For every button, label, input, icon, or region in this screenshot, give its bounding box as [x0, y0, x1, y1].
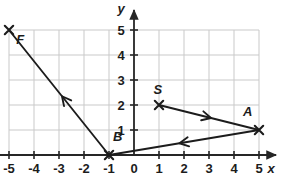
coordinate-plane-figure: -5-4-3-2-101234512345xyFBSA [0, 0, 281, 183]
coordinate-plane-svg: -5-4-3-2-101234512345xyFBSA [0, 0, 281, 183]
x-axis-tick-label: -3 [53, 161, 65, 176]
x-axis-tick-label: -2 [78, 161, 90, 176]
x-axis-tick-label: 1 [155, 161, 162, 176]
point-label-A: A [242, 104, 252, 119]
x-axis-tick-label: -4 [28, 161, 40, 176]
x-axis-tick-label: -5 [3, 161, 15, 176]
x-axis-tick-label: 0 [130, 161, 137, 176]
x-axis-label: x [266, 161, 275, 176]
point-label-S: S [153, 82, 162, 97]
y-axis-label: y [116, 1, 125, 16]
x-axis-tick-label: -1 [103, 161, 115, 176]
y-axis-tick-label: 5 [117, 23, 124, 38]
y-axis-tick-label: 3 [117, 73, 124, 88]
x-axis-tick-label: 4 [230, 161, 238, 176]
point-label-B: B [113, 129, 122, 144]
x-axis-tick-label: 2 [180, 161, 187, 176]
y-axis-tick-label: 2 [117, 98, 124, 113]
x-axis-tick-label: 5 [255, 161, 262, 176]
point-label-F: F [16, 32, 25, 47]
x-axis-tick-label: 3 [205, 161, 212, 176]
y-axis-tick-label: 4 [117, 48, 125, 63]
